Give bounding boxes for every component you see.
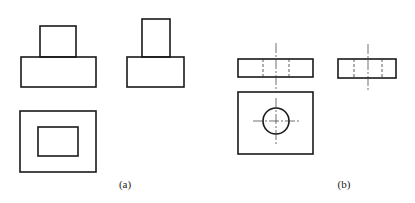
technical-drawing	[0, 0, 415, 203]
figure-b-label: (b)	[338, 178, 351, 190]
plan-inner	[38, 127, 78, 156]
front-base	[21, 57, 96, 87]
side-base	[127, 57, 184, 87]
figure-b-front-view	[238, 43, 313, 90]
figure-b-plan-view	[238, 92, 313, 154]
plan-plate	[238, 92, 313, 154]
side-plate	[338, 59, 396, 78]
front-top-block	[40, 26, 76, 57]
figure-b-side-view	[338, 44, 396, 90]
figure-b	[238, 43, 396, 154]
side-top-block	[142, 19, 170, 57]
plan-outer	[20, 111, 96, 172]
figure-a-plan-view	[20, 111, 96, 172]
figure-a-front-view	[21, 26, 96, 87]
front-plate	[238, 59, 313, 77]
figure-a	[20, 19, 184, 172]
figure-a-label: (a)	[119, 178, 131, 190]
figure-a-side-view	[127, 19, 184, 87]
